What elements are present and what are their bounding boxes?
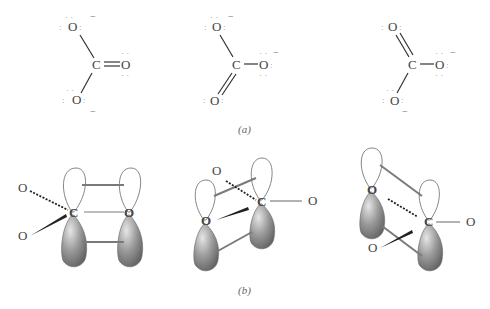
p-orbital-lobe-bottom	[62, 215, 87, 267]
svg-text::: :	[204, 22, 207, 32]
oxygen-overlap: O	[124, 205, 134, 220]
oxygen-top: O	[212, 19, 221, 34]
svg-text:−: −	[90, 106, 96, 117]
caption-a: (a)	[238, 123, 251, 136]
svg-text:· ·: · ·	[121, 70, 129, 80]
svg-text:−: −	[90, 11, 96, 22]
carbon: C	[408, 57, 417, 72]
svg-text::: :	[270, 60, 273, 70]
p-orbital-lobe-bottom	[118, 215, 143, 267]
orbital-diagram-3: O C O O	[360, 148, 476, 271]
svg-text::: :	[62, 95, 65, 105]
p-orbital-lobe-bottom	[250, 204, 275, 249]
oxygen-bottom: O	[210, 93, 219, 108]
svg-text::: :	[203, 95, 206, 105]
carbonate-diagram: · · : O : − C · · O · · · · : O : − · · …	[0, 0, 490, 309]
svg-text::: :	[401, 95, 404, 105]
orbital-diagram-2: O C O O	[194, 158, 318, 271]
carbon: C	[69, 205, 78, 220]
resonance-structure-2: · · : O : − C · · O : · · − : O :	[203, 11, 279, 108]
oxygen-overlap: O	[367, 182, 377, 197]
svg-text::: :	[59, 22, 62, 32]
caption-b: (b)	[238, 284, 251, 297]
carbon: C	[424, 214, 433, 229]
svg-text:· ·: · ·	[259, 70, 267, 80]
svg-text::: :	[83, 95, 86, 105]
resonance-structure-1: · · : O : − C · · O · · · · : O : −	[59, 11, 130, 117]
svg-text:−: −	[450, 47, 456, 58]
svg-text:−: −	[402, 106, 408, 117]
oxygen-bottom: O	[72, 92, 81, 107]
oxygen-bottom: O	[390, 93, 399, 108]
carbon: C	[232, 57, 241, 72]
oxygen-top: O	[388, 19, 397, 34]
oxygen-substituent: O	[18, 228, 27, 243]
oxygen-substituent: O	[466, 214, 475, 229]
svg-text::: :	[446, 60, 449, 70]
orbital-diagram-1: C O O O	[18, 168, 143, 267]
svg-text::: :	[381, 22, 384, 32]
resonance-structure-3: : O : C · · O : · · − · · : O : −	[381, 19, 456, 117]
svg-text::: :	[399, 22, 402, 32]
svg-text::: :	[223, 22, 226, 32]
oxygen-substituent: O	[212, 163, 221, 178]
svg-text::: :	[79, 22, 82, 32]
p-orbital-lobe-bottom	[360, 192, 385, 239]
p-orbital-lobe-bottom	[194, 224, 219, 271]
svg-text:−: −	[228, 11, 234, 22]
svg-text:· ·: · ·	[435, 70, 443, 80]
oxygen-substituent: O	[368, 240, 377, 255]
p-orbital-lobe-bottom	[418, 224, 443, 271]
carbon: C	[257, 194, 266, 209]
oxygen-substituent: O	[18, 180, 27, 195]
oxygen-overlap: O	[201, 213, 211, 228]
oxygen-top: O	[68, 19, 77, 34]
svg-text::: :	[382, 95, 385, 105]
svg-text::: :	[221, 95, 224, 105]
carbon: C	[92, 57, 101, 72]
svg-text:−: −	[273, 47, 279, 58]
oxygen-substituent: O	[308, 193, 317, 208]
